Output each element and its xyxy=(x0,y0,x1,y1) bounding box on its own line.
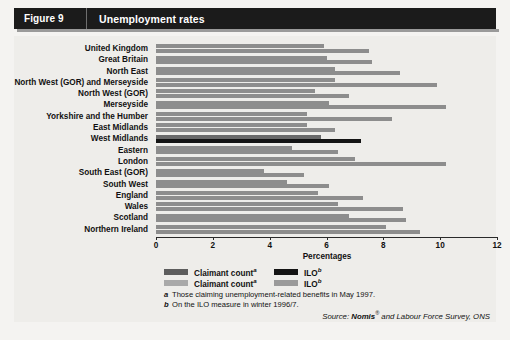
legend-label-ilo-dark: ILOb xyxy=(304,266,321,278)
bar-ilo xyxy=(156,49,369,53)
bar-claimant-count xyxy=(156,44,324,48)
bar-ilo xyxy=(156,207,403,211)
bar-claimant-count xyxy=(156,214,349,218)
x-axis-tick-label: 10 xyxy=(436,241,445,250)
x-axis-tick xyxy=(156,237,157,240)
bar-row xyxy=(156,167,497,178)
category-label: South West xyxy=(14,179,152,190)
legend-swatch-claimant-light xyxy=(164,280,188,286)
bar-claimant-count xyxy=(156,123,307,127)
x-axis-tick xyxy=(383,237,384,240)
category-label: North West (GOR) and Merseyside xyxy=(14,77,152,88)
bar-claimant-count xyxy=(156,101,329,105)
category-label: Wales xyxy=(14,201,152,212)
bar-claimant-count xyxy=(156,191,318,195)
title-bar-shadow xyxy=(17,29,499,32)
legend-swatch-claimant-dark xyxy=(164,269,188,275)
category-label: North East xyxy=(14,66,152,77)
category-axis-labels: United KingdomGreat BritainNorth EastNor… xyxy=(14,43,152,235)
bar-claimant-count xyxy=(156,112,307,116)
legend-item-claimant-dark: Claimant counta xyxy=(164,266,274,278)
footnote: bOn the ILO measure in winter 1996/7. xyxy=(164,300,494,310)
bar-row xyxy=(156,156,497,167)
legend-swatch-ilo-dark xyxy=(274,269,298,275)
figure-page: Figure 9 Unemployment rates United Kingd… xyxy=(0,0,510,340)
bar-ilo xyxy=(156,117,392,121)
bar-claimant-count xyxy=(156,180,287,184)
bar-row xyxy=(156,77,497,88)
bar-ilo xyxy=(156,218,406,222)
bar-ilo xyxy=(156,184,329,188)
x-axis-tick xyxy=(497,237,498,240)
bar-ilo xyxy=(156,150,338,154)
category-label: Northern Ireland xyxy=(14,224,152,235)
legend-label-ilo-light: ILOb xyxy=(304,277,321,289)
bar-row xyxy=(156,99,497,110)
x-axis-tick xyxy=(327,237,328,240)
legend-row-dark: Claimant counta ILOb xyxy=(164,266,494,277)
figure-number: Figure 9 xyxy=(14,13,86,24)
legend-label-claimant-light: Claimant counta xyxy=(194,277,257,289)
bar-row xyxy=(156,133,497,144)
bar-ilo xyxy=(156,128,335,132)
category-label: Merseyside xyxy=(14,99,152,110)
bar-row xyxy=(156,43,497,54)
category-label: South East (GOR) xyxy=(14,167,152,178)
bar-ilo xyxy=(156,94,349,98)
chart-legend: Claimant counta ILOb Claimant counta ILO… xyxy=(164,266,494,288)
source-prefix: Source: xyxy=(322,312,351,321)
category-label: East Midlands xyxy=(14,122,152,133)
chart-panel: United KingdomGreat BritainNorth EastNor… xyxy=(14,36,496,322)
x-axis-tick-label: 0 xyxy=(154,241,159,250)
category-label: West Midlands xyxy=(14,133,152,144)
bar-claimant-count xyxy=(156,157,355,161)
x-axis-tick-label: 4 xyxy=(267,241,272,250)
bar-claimant-count xyxy=(156,202,338,206)
bar-claimant-count xyxy=(156,225,386,229)
category-label: Great Britain xyxy=(14,54,152,65)
legend-label-claimant-dark: Claimant counta xyxy=(194,266,257,278)
category-label: United Kingdom xyxy=(14,43,152,54)
category-label: Scotland xyxy=(14,212,152,223)
legend-row-light: Claimant counta ILOb xyxy=(164,277,494,288)
bar-ilo xyxy=(156,230,420,234)
footnote-text: On the ILO measure in winter 1996/7. xyxy=(172,300,299,309)
source-name: Nomis xyxy=(351,312,375,321)
figure-title-bar: Figure 9 Unemployment rates xyxy=(14,8,496,29)
footnote-marker: a xyxy=(164,290,172,300)
footnote-text: Those claiming unemployment-related bene… xyxy=(172,290,375,299)
legend-item-ilo-light: ILOb xyxy=(274,277,321,289)
plot-area: United KingdomGreat BritainNorth EastNor… xyxy=(14,36,496,322)
x-axis-tick-label: 8 xyxy=(381,241,386,250)
bar-claimant-count xyxy=(156,78,335,82)
bar-ilo xyxy=(156,196,363,200)
bar-claimant-count xyxy=(156,135,321,139)
bar-claimant-count xyxy=(156,169,264,173)
bar-claimant-count xyxy=(156,89,315,93)
figure-title: Unemployment rates xyxy=(87,13,205,25)
footnote: aThose claiming unemployment-related ben… xyxy=(164,290,494,300)
bar-row xyxy=(156,224,497,235)
bar-claimant-count xyxy=(156,67,335,71)
bar-claimant-count xyxy=(156,146,292,150)
bar-row xyxy=(156,111,497,122)
category-label: England xyxy=(14,190,152,201)
legend-item-claimant-light: Claimant counta xyxy=(164,277,274,289)
bar-ilo xyxy=(156,173,304,177)
bar-ilo xyxy=(156,139,361,143)
category-label: North West (GOR) xyxy=(14,88,152,99)
source-suffix: and Labour Force Survey, ONS xyxy=(379,312,490,321)
bar-row xyxy=(156,190,497,201)
footnotes-block: aThose claiming unemployment-related ben… xyxy=(164,290,494,310)
x-axis-tick xyxy=(213,237,214,240)
source-line: Source: Nomis® and Labour Force Survey, … xyxy=(322,310,490,321)
x-axis-tick-label: 2 xyxy=(211,241,216,250)
legend-swatch-ilo-light xyxy=(274,280,298,286)
bar-row xyxy=(156,54,497,65)
bar-claimant-count xyxy=(156,56,327,60)
bar-row xyxy=(156,201,497,212)
x-axis-title: Percentages xyxy=(156,252,498,261)
bar-row xyxy=(156,145,497,156)
x-axis-tick xyxy=(440,237,441,240)
bar-series-area xyxy=(156,43,497,236)
